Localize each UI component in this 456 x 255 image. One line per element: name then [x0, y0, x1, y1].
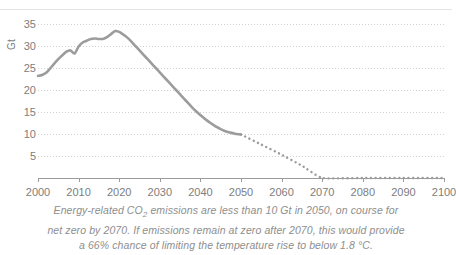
chart-caption: Energy-related CO2 emissions are less th… [24, 203, 428, 254]
caption-line-1: Energy-related CO2 emissions are less th… [24, 203, 428, 223]
caption-line-2: net zero by 2070. If emissions remain at… [24, 223, 428, 239]
dotted-line-series [241, 134, 444, 178]
solid-line-series [38, 31, 241, 134]
caption-line-3: a 66% chance of limiting the temperature… [24, 238, 428, 254]
